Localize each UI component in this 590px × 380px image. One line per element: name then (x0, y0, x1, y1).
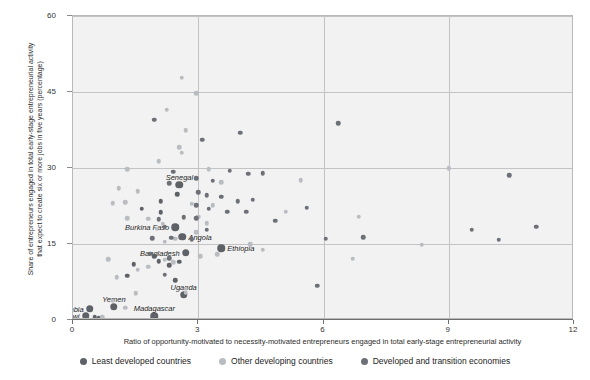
point-label-zambia: Zambia (72, 304, 84, 313)
data-point (305, 205, 310, 210)
data-point (146, 265, 151, 270)
data-point (106, 257, 111, 262)
x-tick (448, 320, 449, 324)
legend-label: Least developed countries (92, 356, 191, 366)
x-tick (323, 320, 324, 324)
data-point (447, 166, 452, 171)
data-point (261, 171, 266, 176)
x-tick (72, 320, 73, 324)
legend-label: Other developing countries (231, 356, 333, 366)
data-point (158, 210, 163, 215)
data-point (250, 198, 255, 203)
data-point-angola (179, 233, 187, 241)
y-axis-title-line1: Share of entrepreneurs engaged in total … (26, 9, 35, 309)
plot-area: MalawiZambiaYemenMadagascarUgandaBanglad… (72, 15, 573, 319)
data-point (152, 118, 157, 123)
data-point (169, 236, 174, 241)
point-label-madagascar: Madagascar (134, 304, 175, 313)
data-point (156, 217, 161, 222)
data-point (123, 200, 128, 205)
data-point (227, 168, 232, 173)
data-point (246, 171, 251, 176)
data-point (204, 193, 209, 198)
data-point (261, 247, 266, 252)
y-tick-label: 0 (0, 315, 64, 324)
data-point (198, 254, 203, 259)
data-point (238, 130, 243, 135)
data-point (165, 107, 170, 112)
data-point (507, 173, 512, 178)
data-point (236, 199, 241, 204)
data-point (183, 286, 188, 291)
data-point (248, 242, 253, 247)
scatter-chart: MalawiZambiaYemenMadagascarUgandaBanglad… (0, 0, 590, 380)
x-axis-title: Ratio of opportunity-motivated to necess… (72, 337, 573, 346)
data-point (179, 151, 184, 156)
x-tick (573, 320, 574, 324)
data-point-yemen (110, 303, 118, 311)
legend-marker-icon (80, 358, 87, 365)
data-point (206, 206, 211, 211)
data-point (115, 275, 120, 280)
data-point (154, 227, 159, 232)
data-point (173, 237, 178, 242)
data-point-ethiopia (217, 244, 225, 252)
data-point (125, 274, 130, 279)
data-point (336, 121, 341, 126)
data-point (204, 228, 209, 233)
data-point (190, 237, 195, 242)
legend-item-2[interactable]: Other developing countries (219, 356, 333, 366)
data-point (177, 145, 182, 150)
data-point (183, 128, 188, 133)
point-label-bangladesh: Bangladesh (140, 248, 180, 257)
data-point (215, 252, 220, 257)
data-point (357, 214, 362, 219)
chart-legend: Least developed countriesOther developin… (0, 356, 590, 366)
gridline-vertical (198, 16, 199, 318)
legend-item-3[interactable]: Developed and transition economies (361, 356, 511, 366)
data-point (156, 259, 161, 264)
data-point (273, 218, 278, 223)
data-point (125, 216, 130, 221)
y-tick (67, 15, 72, 16)
y-axis-title-line2: that expect to create six or more jobs i… (35, 9, 44, 309)
data-point (163, 240, 168, 245)
data-point (156, 159, 161, 164)
data-point (361, 235, 366, 240)
data-point (135, 268, 140, 273)
data-point (219, 180, 224, 185)
data-point (152, 254, 157, 259)
data-point (123, 306, 128, 311)
data-point (284, 209, 289, 214)
data-point (148, 251, 153, 256)
data-point-senegal (176, 181, 184, 189)
data-point (110, 298, 115, 303)
x-tick-label: 12 (569, 325, 578, 334)
data-point (150, 236, 155, 241)
x-tick (197, 320, 198, 324)
data-point (194, 203, 199, 208)
data-point (315, 283, 320, 288)
data-point (140, 206, 145, 211)
x-tick-label: 9 (446, 325, 450, 334)
y-axis-title: Share of entrepreneurs engaged in total … (26, 9, 44, 309)
x-tick-label: 3 (195, 325, 199, 334)
data-point-zambia (86, 305, 94, 313)
data-point (204, 221, 209, 226)
data-point (175, 192, 180, 197)
data-point (183, 290, 188, 295)
y-tick (67, 167, 72, 168)
gridline-horizontal (73, 168, 572, 169)
data-point (171, 169, 176, 174)
data-point (133, 291, 138, 296)
data-point (323, 237, 328, 242)
data-point-burkina-faso (172, 224, 180, 232)
y-tick (67, 91, 72, 92)
gridline-vertical (324, 16, 325, 318)
data-point (497, 238, 502, 243)
legend-item-1[interactable]: Least developed countries (80, 356, 191, 366)
x-tick-label: 6 (320, 325, 324, 334)
data-point (469, 228, 474, 233)
data-point (219, 195, 224, 200)
x-tick-label: 0 (70, 325, 74, 334)
